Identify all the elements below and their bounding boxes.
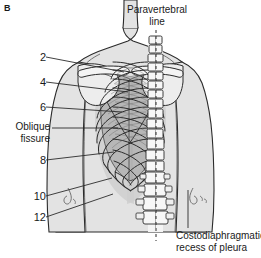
label-oblique-fissure: Oblique fissure [0,121,50,145]
label-rib-2: 2 [24,51,46,63]
costodiaphragmatic-line2: recess of pleura [176,242,261,254]
oblique-fissure-line2: fissure [0,133,50,145]
oblique-fissure-line1: Oblique [0,121,50,133]
costodiaphragmatic-caption: Costodiaphragmatic recess of pleura [176,230,261,254]
paravertebral-title-line2: line [113,16,201,28]
paravertebral-line-title: Paravertebral line [113,4,201,28]
paravertebral-title-line1: Paravertebral [113,4,201,16]
panel-letter: B [4,3,11,13]
label-rib-12: 12 [18,211,46,223]
label-rib-8: 8 [24,154,46,166]
costodiaphragmatic-line1: Costodiaphragmatic [176,230,261,242]
label-rib-10: 10 [18,190,46,202]
figure-panel-b: B Paravertebral line 2 4 6 Oblique fissu… [0,0,261,258]
label-rib-6: 6 [24,101,46,113]
label-rib-4: 4 [24,76,46,88]
